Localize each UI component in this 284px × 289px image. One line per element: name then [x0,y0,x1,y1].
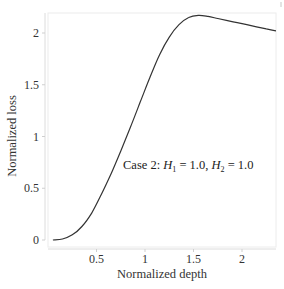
x-ticks: 0.511.52 [89,249,245,266]
y-axis-label: Normalized loss [5,95,19,177]
x-tick-label: 0.5 [89,252,104,266]
y-tick-label: 2 [33,26,39,40]
case-annotation: Case 2: H1 = 1.0, H2 = 1.0 [123,158,253,174]
x-tick-label: 1 [142,252,148,266]
y-tick-label: 0.5 [24,181,39,195]
y-tick-label: 1 [33,130,39,144]
x-tick-label: 1.5 [186,252,201,266]
x-tick-label: 2 [239,252,245,266]
plot-frame [48,13,276,247]
data-line [53,15,276,240]
chart: 00.511.52 0.511.52 Case 2: H1 = 1.0, H2 … [0,0,284,289]
y-tick-label: 1.5 [24,78,39,92]
y-tick-label: 0 [33,233,39,247]
y-ticks: 00.511.52 [24,26,45,247]
x-axis-label: Normalized depth [117,267,208,281]
